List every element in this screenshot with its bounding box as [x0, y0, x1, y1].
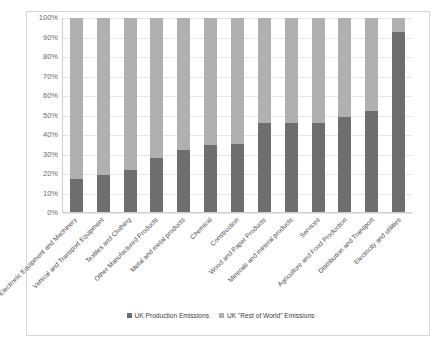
bar-stack[interactable]: [177, 18, 190, 212]
bar-segment-uk-production[interactable]: [70, 179, 83, 212]
y-axis-tick-label: 0%: [24, 209, 58, 217]
bar-stack[interactable]: [231, 18, 244, 212]
legend-item[interactable]: UK Production Emissions: [127, 312, 209, 319]
bar-column[interactable]: [117, 18, 144, 212]
bar-segment-rest-of-world[interactable]: [177, 18, 190, 150]
bar-segment-uk-production[interactable]: [177, 150, 190, 212]
x-axis-category-label: Services: [298, 216, 322, 240]
plot-area: [62, 18, 412, 213]
legend-item[interactable]: UK "Rest of World" Emissions: [219, 312, 314, 319]
bar-stack[interactable]: [97, 18, 110, 212]
bar-segment-rest-of-world[interactable]: [365, 18, 378, 111]
bar-segment-rest-of-world[interactable]: [392, 18, 405, 32]
bar-segment-rest-of-world[interactable]: [204, 18, 217, 145]
bar-segment-uk-production[interactable]: [285, 123, 298, 212]
legend-swatch-icon: [219, 313, 224, 318]
x-axis-category-label: Metal and metal products: [129, 216, 187, 274]
x-axis-category-label: Chemical: [189, 216, 214, 241]
bar-column[interactable]: [90, 18, 117, 212]
bar-stack[interactable]: [285, 18, 298, 212]
y-axis-tick-label: 90%: [24, 34, 58, 42]
bar-stack[interactable]: [124, 18, 137, 212]
bar-column[interactable]: [63, 18, 90, 212]
bar-column[interactable]: [144, 18, 171, 212]
y-axis-tick-label: 40%: [24, 131, 58, 139]
legend-label: UK "Rest of World" Emissions: [227, 312, 314, 319]
chart-root: 100%90%80%70%60%50%40%30%20%10%0% Electr…: [0, 0, 441, 353]
bar-stack[interactable]: [365, 18, 378, 212]
bar-segment-rest-of-world[interactable]: [150, 18, 163, 158]
bar-segment-rest-of-world[interactable]: [312, 18, 325, 123]
bar-segment-rest-of-world[interactable]: [97, 18, 110, 175]
bar-column[interactable]: [305, 18, 332, 212]
bar-column[interactable]: [385, 18, 412, 212]
bar-segment-rest-of-world[interactable]: [338, 18, 351, 117]
bar-stack[interactable]: [258, 18, 271, 212]
bar-stack[interactable]: [70, 18, 83, 212]
bar-column[interactable]: [170, 18, 197, 212]
chart-legend: UK Production EmissionsUK "Rest of World…: [0, 312, 441, 319]
bar-column[interactable]: [278, 18, 305, 212]
bar-segment-uk-production[interactable]: [258, 123, 271, 212]
legend-swatch-icon: [127, 313, 132, 318]
bar-segment-uk-production[interactable]: [204, 145, 217, 212]
bar-column[interactable]: [358, 18, 385, 212]
y-axis-tick-label: 100%: [24, 14, 58, 22]
x-axis-category-labels: Electronic Equipment and MachineryVehica…: [62, 214, 412, 314]
y-axis-tick-label: 80%: [24, 53, 58, 61]
bar-stack[interactable]: [312, 18, 325, 212]
bar-segment-uk-production[interactable]: [392, 32, 405, 212]
bar-stack[interactable]: [150, 18, 163, 212]
bar-segment-uk-production[interactable]: [124, 170, 137, 212]
bar-segment-rest-of-world[interactable]: [124, 18, 137, 170]
y-axis-tick-label: 60%: [24, 92, 58, 100]
bar-segment-uk-production[interactable]: [312, 123, 325, 212]
bar-column[interactable]: [331, 18, 358, 212]
y-axis-tick-label: 70%: [24, 73, 58, 81]
bars-layer: [63, 18, 412, 212]
y-axis-tick-label: 20%: [24, 170, 58, 178]
bar-segment-rest-of-world[interactable]: [70, 18, 83, 179]
bar-stack[interactable]: [392, 18, 405, 212]
bar-segment-uk-production[interactable]: [97, 175, 110, 212]
x-axis-category-label: Electricity and utilities: [352, 216, 402, 266]
bar-segment-rest-of-world[interactable]: [285, 18, 298, 123]
bar-segment-rest-of-world[interactable]: [231, 18, 244, 144]
bar-stack[interactable]: [338, 18, 351, 212]
y-axis-tick-label: 30%: [24, 151, 58, 159]
bar-column[interactable]: [197, 18, 224, 212]
legend-label: UK Production Emissions: [135, 312, 209, 319]
bar-segment-uk-production[interactable]: [365, 111, 378, 212]
y-axis-tick-label: 50%: [24, 112, 58, 120]
bar-segment-uk-production[interactable]: [338, 117, 351, 212]
bar-segment-uk-production[interactable]: [150, 158, 163, 212]
y-axis-tick-labels: 100%90%80%70%60%50%40%30%20%10%0%: [22, 18, 58, 213]
bar-column[interactable]: [251, 18, 278, 212]
bar-stack[interactable]: [204, 18, 217, 212]
bar-column[interactable]: [224, 18, 251, 212]
bar-segment-rest-of-world[interactable]: [258, 18, 271, 123]
y-axis-tick-label: 10%: [24, 190, 58, 198]
bar-segment-uk-production[interactable]: [231, 144, 244, 212]
